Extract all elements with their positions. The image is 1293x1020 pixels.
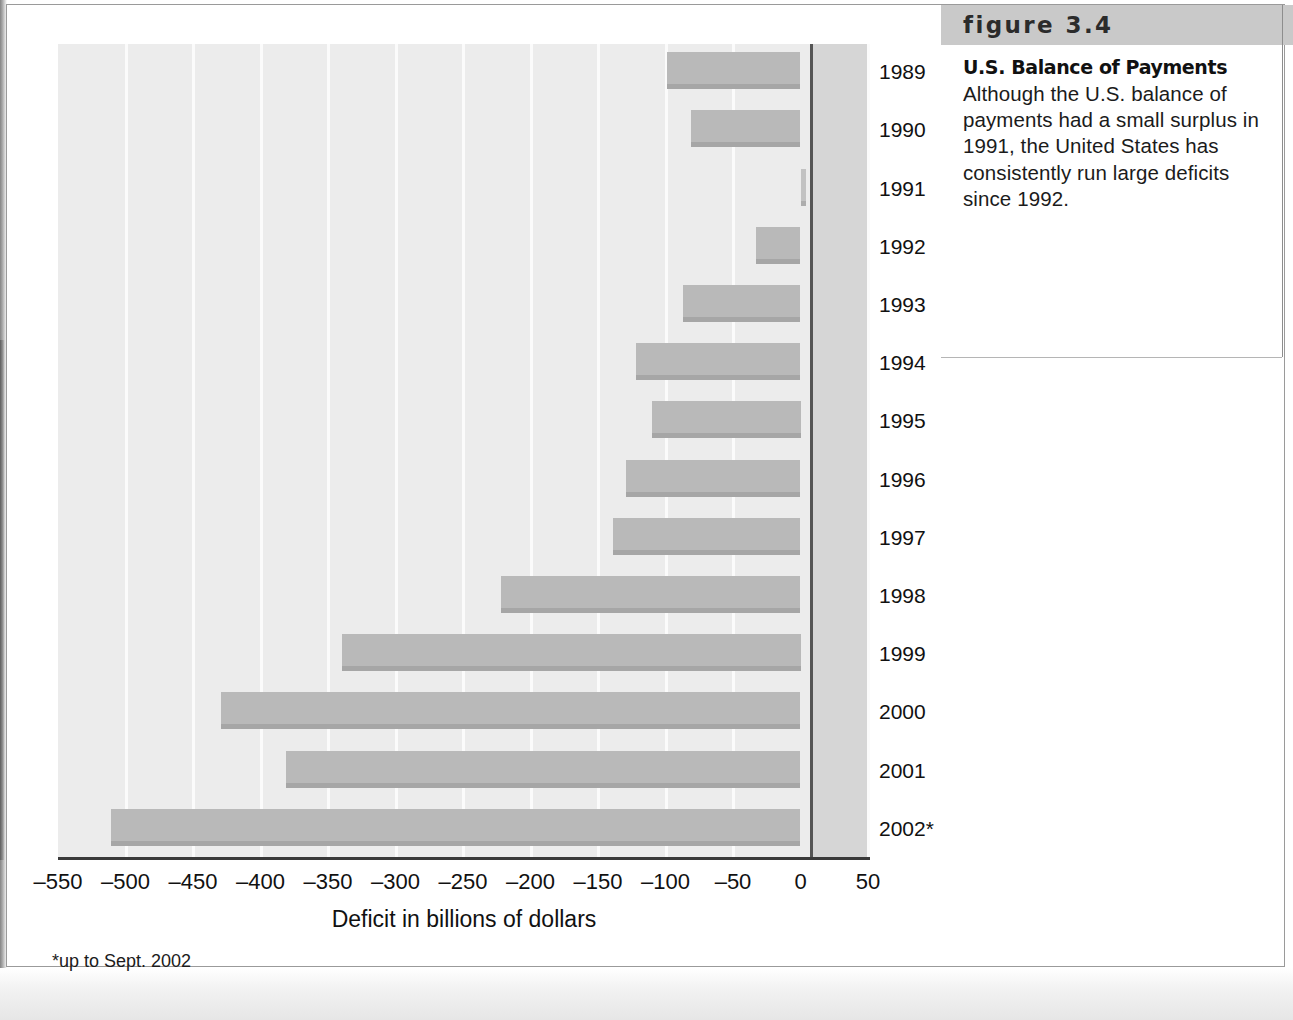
- figure-number-label: figure 3.4: [963, 12, 1113, 38]
- year-label-2002: 2002*: [879, 817, 934, 841]
- year-label-1996: 1996: [879, 468, 926, 492]
- year-label-1991: 1991: [879, 177, 926, 201]
- year-label-1993: 1993: [879, 293, 926, 317]
- gridline: [462, 44, 465, 859]
- xtick-neg200: –200: [506, 869, 555, 895]
- gridline: [192, 44, 195, 859]
- gridline: [597, 44, 600, 859]
- year-label-1999: 1999: [879, 642, 926, 666]
- gridline: [867, 44, 870, 859]
- gridline: [327, 44, 330, 859]
- caption-text: Although the U.S. balance of payments ha…: [963, 81, 1268, 212]
- bar-1997: [613, 518, 801, 555]
- bar-1991: [801, 169, 806, 206]
- bar-1996: [626, 460, 800, 497]
- xtick-neg50: –50: [715, 869, 752, 895]
- caption-title: U.S. Balance of Payments: [963, 57, 1268, 79]
- gridline: [395, 44, 398, 859]
- chart-footnote: *up to Sept. 2002: [52, 951, 191, 972]
- gridline: [732, 44, 735, 859]
- figure-number-banner: figure 3.4: [941, 5, 1293, 45]
- year-label-2001: 2001: [879, 759, 926, 783]
- caption-left-divider: [1282, 5, 1283, 357]
- xtick-50: 50: [856, 869, 880, 895]
- gridline: [665, 44, 668, 859]
- xtick-neg550: –550: [34, 869, 83, 895]
- caption-bottom-rule: [941, 357, 1282, 358]
- positive-axis-band: [810, 44, 868, 859]
- bar-1998: [501, 576, 801, 613]
- bar-2002: [111, 809, 801, 846]
- xtick-neg400: –400: [236, 869, 285, 895]
- page-bottom-shadow: [0, 968, 1293, 1020]
- year-label-1989: 1989: [879, 60, 926, 84]
- year-label-1997: 1997: [879, 526, 926, 550]
- x-axis-title: Deficit in billions of dollars: [58, 906, 870, 933]
- bar-1993: [683, 285, 800, 322]
- bar-2000: [221, 692, 800, 729]
- xtick-neg100: –100: [641, 869, 690, 895]
- gridline: [530, 44, 533, 859]
- bar-2001: [286, 751, 800, 788]
- year-label-1990: 1990: [879, 118, 926, 142]
- bar-1999: [342, 634, 801, 671]
- bar-1992: [756, 227, 801, 264]
- xtick-neg500: –500: [101, 869, 150, 895]
- xtick-0: 0: [794, 869, 806, 895]
- year-label-2000: 2000: [879, 700, 926, 724]
- figure-caption-column: figure 3.4 U.S. Balance of Payments Alth…: [941, 5, 1293, 360]
- xtick-neg300: –300: [371, 869, 420, 895]
- zero-axis-line: [810, 44, 813, 859]
- bar-1990: [691, 110, 800, 147]
- bar-chart: 1989199019911992199319941995199619971998…: [0, 0, 941, 963]
- year-label-1994: 1994: [879, 351, 926, 375]
- caption-body: U.S. Balance of Payments Although the U.…: [963, 57, 1268, 212]
- bar-1995: [652, 401, 801, 438]
- xtick-neg250: –250: [439, 869, 488, 895]
- caption-top-rule: [941, 45, 1282, 46]
- x-axis-line: [58, 857, 870, 860]
- xtick-neg150: –150: [574, 869, 623, 895]
- xtick-neg350: –350: [304, 869, 353, 895]
- xtick-neg450: –450: [169, 869, 218, 895]
- gridline: [125, 44, 128, 859]
- plot-area: [58, 44, 868, 859]
- year-label-1995: 1995: [879, 409, 926, 433]
- bar-1989: [667, 52, 801, 89]
- gridline: [260, 44, 263, 859]
- year-label-1992: 1992: [879, 235, 926, 259]
- bar-1994: [636, 343, 801, 380]
- year-label-1998: 1998: [879, 584, 926, 608]
- page-root: 1989199019911992199319941995199619971998…: [0, 0, 1293, 1020]
